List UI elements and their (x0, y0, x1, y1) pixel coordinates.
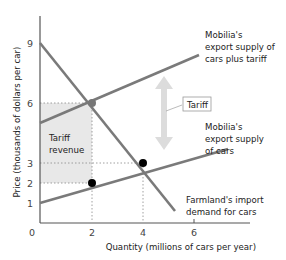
tariff-label: Tariff (186, 100, 209, 110)
x-tick-2: 2 (89, 227, 95, 238)
chart: 9 6 3 2 1 0 2 4 6 Price (thousands of do… (0, 0, 286, 260)
supply-tariff-label-2: export supply of (205, 42, 276, 52)
revenue-label-1: Tariff (48, 133, 71, 143)
point-exporter-price (88, 179, 96, 187)
tariff-leader (166, 105, 182, 111)
point-tariff-equilibrium (88, 99, 96, 107)
supply-label-2: export supply (205, 134, 264, 144)
y-tick-6: 6 (27, 98, 33, 109)
y-tick-2: 2 (27, 178, 33, 189)
supply-tariff-label-1: Mobilia's (205, 30, 243, 40)
x-axis-title: Quantity (millions of cars per year) (106, 242, 256, 252)
x-tick-4: 4 (140, 227, 146, 238)
revenue-label-2: revenue (49, 145, 84, 155)
y-tick-3: 3 (27, 158, 33, 169)
origin-label: 0 (29, 227, 35, 238)
point-free-trade-equilibrium (139, 159, 147, 167)
y-axis-title: Price (thousands of dollars per car) (12, 47, 22, 198)
tariff-revenue-area (40, 103, 92, 183)
supply-label-1: Mobilia's (205, 122, 243, 132)
y-tick-1: 1 (27, 198, 33, 209)
x-tick-6: 6 (191, 227, 197, 238)
tariff-arrow (155, 76, 173, 150)
y-tick-9: 9 (27, 38, 33, 49)
supply-tariff-label-3: cars plus tariff (205, 54, 268, 64)
supply-label-3: of cars (205, 146, 235, 156)
supply-plus-tariff-curve (40, 55, 199, 123)
demand-label-2: demand for cars (186, 207, 257, 217)
demand-label-1: Farmland's import (186, 195, 264, 205)
